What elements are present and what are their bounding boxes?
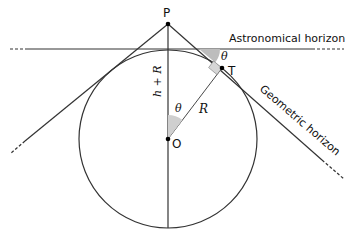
geometric-horizon-dash (322, 160, 344, 179)
label-astronomical-horizon: Astronomical horizon (229, 32, 345, 45)
label-radius: R (198, 102, 208, 116)
left-tangent-line (25, 24, 168, 141)
label-o: O (172, 137, 181, 151)
point-p (166, 22, 171, 27)
theta-angle-wedge-center (168, 115, 183, 139)
label-theta-top: θ (221, 50, 228, 63)
label-theta-center: θ (175, 102, 182, 115)
label-p: P (163, 6, 170, 20)
label-height: h + R (151, 65, 164, 97)
point-t (220, 66, 225, 71)
left-tangent-dash (10, 141, 25, 154)
label-geometric-horizon: Geometric horizon (257, 82, 343, 158)
label-t: T (227, 64, 236, 78)
point-o (166, 137, 171, 142)
horizon-diagram: P T O θ θ R h + R Astronomical horizon G… (0, 0, 352, 235)
